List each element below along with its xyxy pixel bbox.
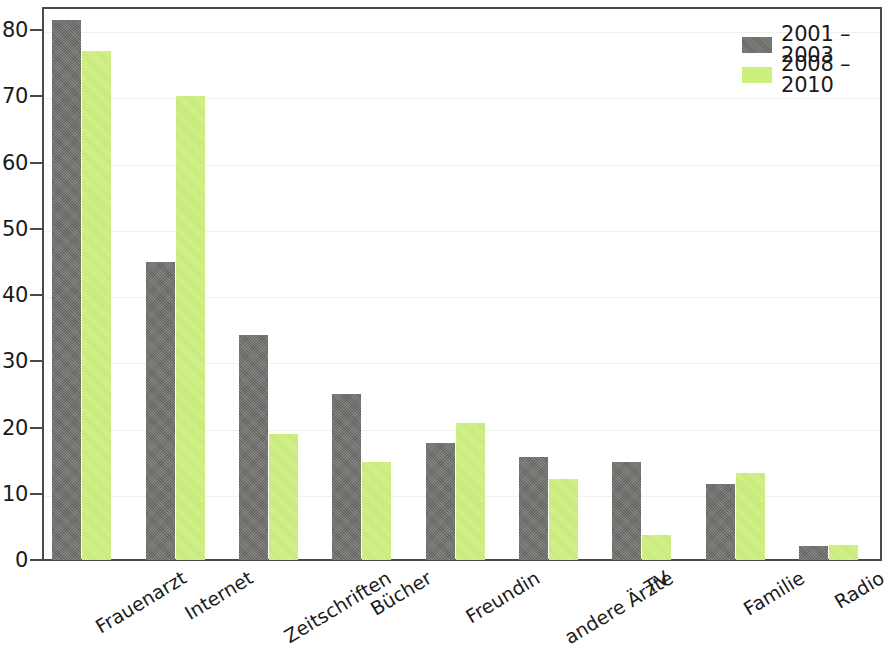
legend-item: 2008 – 2010 <box>742 60 885 90</box>
bar-bücher-series-2 <box>362 462 391 560</box>
bar-zeitschriften-series-1 <box>239 335 268 560</box>
bar-group <box>519 7 578 561</box>
bar-group <box>52 7 111 561</box>
bar-radio-series-2 <box>829 545 858 560</box>
bar-freundin-series-2 <box>456 423 485 560</box>
bar-freundin-series-1 <box>426 443 455 560</box>
bar-radio-series-1 <box>799 546 828 560</box>
bars-layer <box>42 7 882 561</box>
bar-internet-series-1 <box>146 262 175 560</box>
bar-tv-series-2 <box>642 535 671 560</box>
x-axis-label: Frauenarzt <box>92 568 189 637</box>
legend-swatch-series-2 <box>742 67 772 83</box>
bar-group <box>426 7 485 561</box>
bar-bücher-series-1 <box>332 394 361 560</box>
x-axis-label: Freundin <box>463 568 543 627</box>
bar-andere-ärzte-series-1 <box>519 457 548 560</box>
bar-zeitschriften-series-2 <box>269 434 298 560</box>
bar-group <box>146 7 205 561</box>
x-axis-label: Radio <box>832 568 885 612</box>
bar-frauenarzt-series-2 <box>82 51 111 560</box>
y-axis-label: 30 <box>0 351 28 372</box>
legend-swatch-series-1 <box>742 37 772 53</box>
y-axis-label: 70 <box>0 86 28 107</box>
bar-frauenarzt-series-1 <box>52 20 81 560</box>
legend-label-series-2: 2008 – 2010 <box>781 54 885 96</box>
bar-internet-series-2 <box>176 96 205 560</box>
y-axis-label: 10 <box>0 484 28 505</box>
bar-familie-series-1 <box>706 484 735 560</box>
bar-familie-series-2 <box>736 473 765 560</box>
bar-chart: 01020304050607080 FrauenarztInternetZeit… <box>0 0 885 669</box>
bar-group <box>239 7 298 561</box>
y-axis-label: 20 <box>0 418 28 439</box>
bar-group <box>612 7 671 561</box>
x-axis-label: Familie <box>741 568 808 619</box>
bar-group <box>706 7 765 561</box>
bar-andere-ärzte-series-2 <box>549 479 578 560</box>
y-axis: 01020304050607080 <box>0 0 28 669</box>
y-axis-label: 40 <box>0 285 28 306</box>
bar-tv-series-1 <box>612 462 641 560</box>
legend: 2001 – 2003 2008 – 2010 <box>742 30 885 90</box>
bar-group <box>332 7 391 561</box>
y-axis-label: 80 <box>0 20 28 41</box>
x-axis-label: Internet <box>182 568 256 623</box>
y-axis-label: 0 <box>0 550 28 571</box>
y-axis-label: 60 <box>0 153 28 174</box>
y-axis-label: 50 <box>0 219 28 240</box>
